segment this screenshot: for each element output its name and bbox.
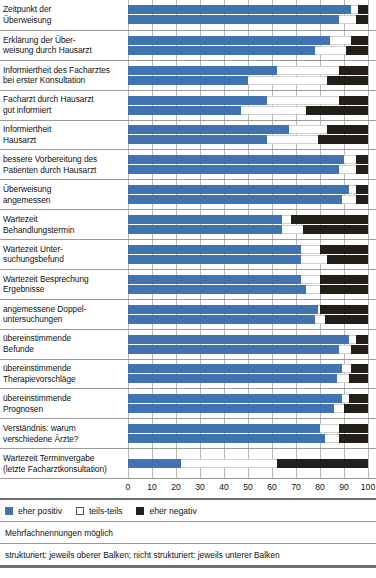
bar-segment-neg <box>327 255 368 264</box>
bar-segment-mid <box>342 364 352 373</box>
bar-group-label: Erklärung der Über-weisung durch Hausarz… <box>0 31 128 60</box>
bar-group-plot <box>128 61 376 90</box>
bar-group-label: übereinstimmendeBefunde <box>0 330 128 359</box>
bar-segment-mid <box>282 225 304 234</box>
bar-segment-neg <box>327 76 368 85</box>
bar-segment-mid <box>325 434 339 443</box>
bar-segment-mid <box>339 345 351 354</box>
bar-stack <box>128 150 376 179</box>
bar-group-label-line: suchungsbefund <box>3 254 124 265</box>
bar-segment-mid <box>282 215 292 224</box>
bar-group-label-line: Hausarzt <box>3 135 124 146</box>
bar-group-plot <box>128 360 376 389</box>
bar <box>128 305 376 314</box>
bar <box>128 155 376 164</box>
bar <box>128 285 376 294</box>
bar-group-label: Wartezeit BesprechungErgebnisse <box>0 270 128 299</box>
bar-segment-mid <box>339 15 356 24</box>
bar-segment-pos <box>128 345 339 354</box>
bar-group-label-line: Wartezeit <box>3 214 124 225</box>
bar-group-label-line: übereinstimmende <box>3 393 124 404</box>
bar-stack <box>128 419 376 448</box>
bar-stack <box>128 210 376 239</box>
bar-segment-pos <box>128 76 248 85</box>
bar <box>128 215 376 224</box>
bar-stack <box>128 61 376 90</box>
bar-group-plot <box>128 449 376 478</box>
bar <box>128 195 376 204</box>
bar <box>128 36 376 45</box>
bar-group-label-line: bei erster Konsultation <box>3 75 124 86</box>
bar-stack <box>128 270 376 299</box>
bar-group-row: Wartezeit BesprechungErgebnisse <box>0 269 376 299</box>
bar-group-label: übereinstimmendePrognosen <box>0 389 128 418</box>
bar-segment-neg <box>320 245 368 254</box>
bar-segment-mid <box>267 96 339 105</box>
bar <box>128 135 376 144</box>
bar-group-row: InformiertheitHausarzt <box>0 120 376 150</box>
bar-segment-mid <box>342 394 349 403</box>
bar <box>128 76 376 85</box>
bar-segment-mid <box>320 424 339 433</box>
bar-group-label-line: Behandlungstermin <box>3 225 124 236</box>
bar <box>128 15 376 24</box>
x-tick-label: 20 <box>171 482 181 492</box>
bar-stack <box>128 91 376 120</box>
x-tick-label: 40 <box>219 482 229 492</box>
bar <box>128 434 376 443</box>
bar-stack <box>128 31 376 60</box>
bar-group-label-line: Überweisung <box>3 184 124 195</box>
legend-item-mid: teils-teils <box>76 506 122 516</box>
bar-segment-neg <box>356 165 368 174</box>
bar-stack <box>128 180 376 209</box>
chart-legend: eher positivteils-teilseher negativ <box>0 500 376 522</box>
bar-segment-pos <box>128 374 337 383</box>
bar-group-row: bessere Vorbereitung desPatienten durch … <box>0 149 376 179</box>
bar-group-label-line: Facharzt durch Hausarzt <box>3 94 124 105</box>
bar-group-label: Wartezeit Terminvergabe(letzte Facharztk… <box>0 449 128 478</box>
bar-segment-neg <box>306 106 368 115</box>
bar <box>128 335 376 344</box>
bar-segment-pos <box>128 5 351 14</box>
bar-group-row: WartezeitBehandlungstermin <box>0 209 376 239</box>
bar-group-plot <box>128 91 376 120</box>
bar-segment-pos <box>128 434 325 443</box>
bar-segment-pos <box>128 275 301 284</box>
bar-group-label: Facharzt durch Hausarztgut informiert <box>0 91 128 120</box>
bar-group-plot <box>128 389 376 418</box>
bar-segment-pos <box>128 15 339 24</box>
bar-group-row: übereinstimmendePrognosen <box>0 388 376 418</box>
bar-segment-mid <box>277 66 339 75</box>
bar-group-label: übereinstimmendeTherapievorschläge <box>0 360 128 389</box>
bar <box>128 275 376 284</box>
x-tick-label: 90 <box>339 482 349 492</box>
bar-segment-pos <box>128 255 301 264</box>
bar-segment-pos <box>128 315 315 324</box>
bar-segment-pos <box>128 215 282 224</box>
bar-group-label-line: Wartezeit Besprechung <box>3 274 124 285</box>
bar-segment-mid <box>349 335 356 344</box>
bar-group-row: übereinstimmendeTherapievorschläge <box>0 359 376 389</box>
x-axis: 0102030405060708090100 <box>0 478 376 500</box>
bar-segment-neg <box>349 374 368 383</box>
bar-segment-neg <box>351 36 368 45</box>
bar-stack <box>128 330 376 359</box>
bar <box>128 225 376 234</box>
x-tick-label: 60 <box>267 482 277 492</box>
bar-group-row: Informiertheit des Facharztesbei erster … <box>0 60 376 90</box>
bar-group-label-line: übereinstimmende <box>3 333 124 344</box>
bar <box>128 345 376 354</box>
chart-page: Zeitpunkt derÜberweisungErklärung der Üb… <box>0 0 376 578</box>
bar-segment-pos <box>128 285 306 294</box>
bar-segment-pos <box>128 165 339 174</box>
bar-segment-pos <box>128 66 277 75</box>
bar-group-plot <box>128 210 376 239</box>
bar-segment-mid <box>349 185 356 194</box>
bar <box>128 245 376 254</box>
x-tick-label: 100 <box>361 482 375 492</box>
bar-segment-neg <box>339 66 368 75</box>
bar-stack <box>128 0 376 30</box>
bar-group-row: Wartezeit Unter-suchungsbefund <box>0 239 376 269</box>
bar-group-row: übereinstimmendeBefunde <box>0 329 376 359</box>
footnote-multiple-answers: Mehrfachnennungen möglich <box>0 522 376 544</box>
